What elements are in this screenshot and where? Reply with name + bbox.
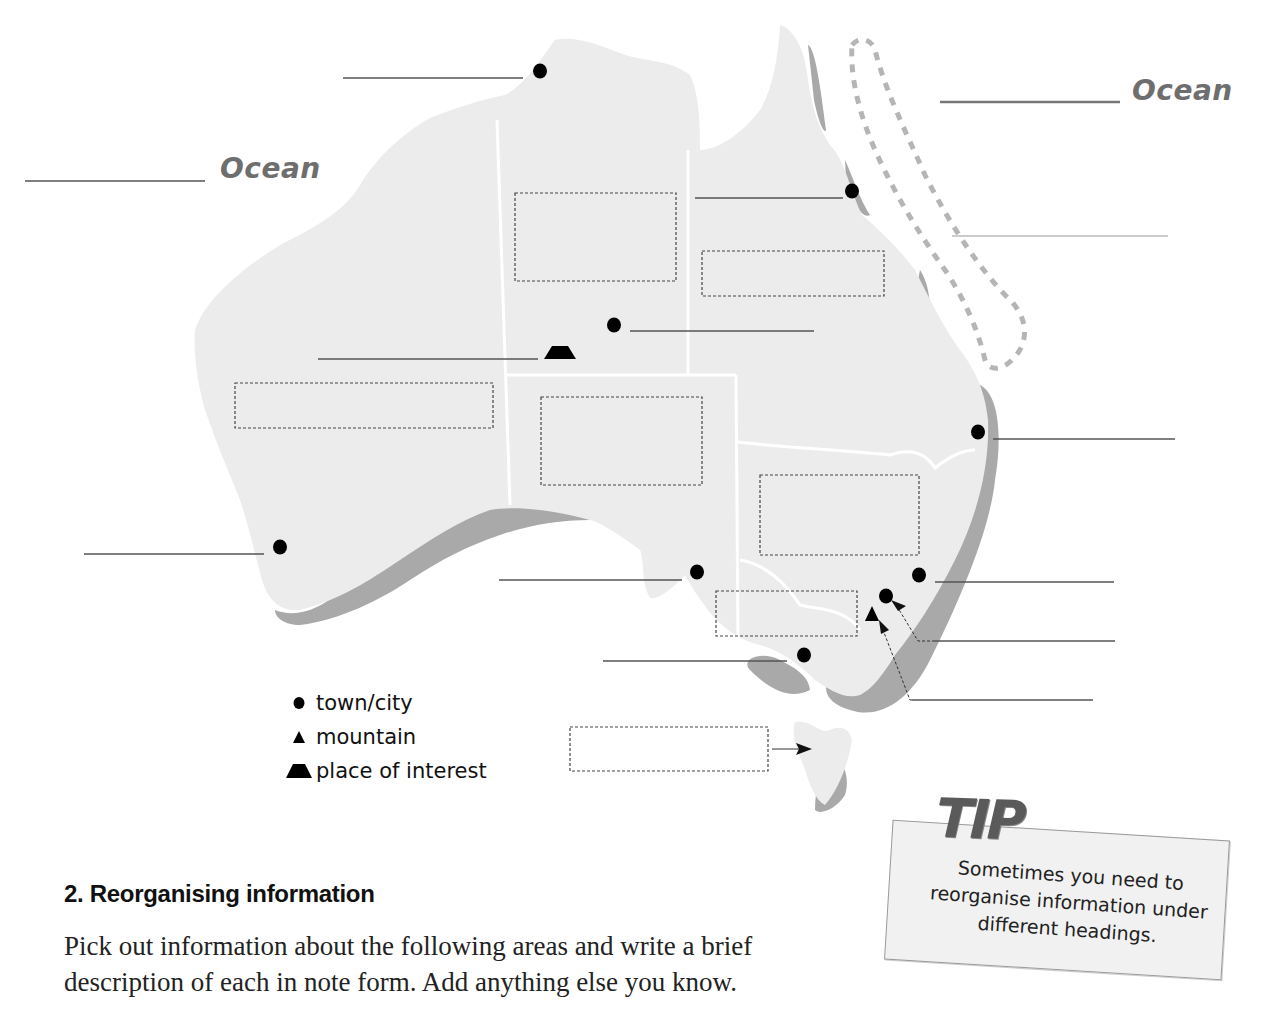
town-brisbane[interactable] <box>971 425 985 440</box>
map-legend: town/city mountain place of interest <box>282 686 487 788</box>
triangle-icon <box>282 730 316 744</box>
town-darwin[interactable] <box>533 64 547 79</box>
section-instructions: Pick out information about the following… <box>64 928 864 1000</box>
legend-label: place of interest <box>316 759 487 783</box>
town-sydney[interactable] <box>912 568 926 583</box>
town-cairns[interactable] <box>845 184 859 199</box>
tip-title: TIP <box>935 786 1025 852</box>
section-title: 2. Reorganising information <box>64 880 375 908</box>
dot-icon <box>282 696 316 710</box>
ocean-label-east: Ocean <box>1132 74 1233 107</box>
town-alice-springs[interactable] <box>607 318 621 333</box>
legend-item-town: town/city <box>282 686 487 720</box>
legend-item-mountain: mountain <box>282 720 487 754</box>
legend-label: mountain <box>316 725 416 749</box>
mainland <box>195 25 989 696</box>
town-adelaide[interactable] <box>690 565 704 580</box>
ocean-label-west: Ocean <box>220 152 321 185</box>
town-melbourne[interactable] <box>797 648 811 663</box>
town-canberra[interactable] <box>879 589 893 604</box>
tip-box: TIP Sometimes you need to reorganise inf… <box>880 790 1240 1010</box>
legend-label: town/city <box>316 691 413 715</box>
trapezoid-icon <box>282 763 316 779</box>
town-perth[interactable] <box>273 540 287 555</box>
australia-map <box>0 0 1264 820</box>
legend-item-place: place of interest <box>282 754 487 788</box>
answer-box-tas[interactable] <box>570 727 768 771</box>
